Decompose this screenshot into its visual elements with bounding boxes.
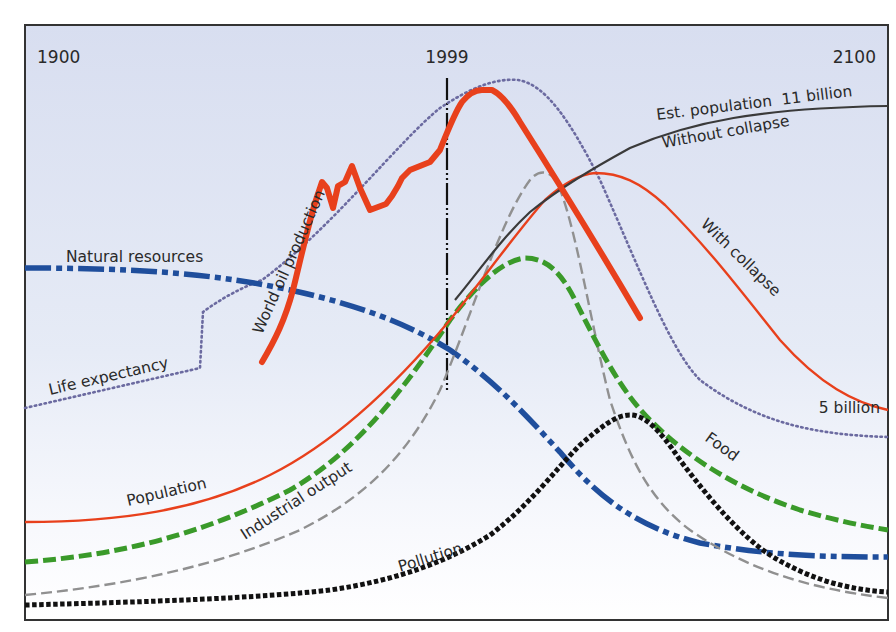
label-5-billion: 5 billion xyxy=(819,399,880,417)
chart-svg: 1900 1999 2100 Natural resources Life ex… xyxy=(0,0,896,632)
year-label-2100: 2100 xyxy=(833,47,876,67)
year-label-1900: 1900 xyxy=(37,47,80,67)
limits-to-growth-chart: 1900 1999 2100 Natural resources Life ex… xyxy=(0,0,896,632)
year-label-1999: 1999 xyxy=(425,47,468,67)
label-natural-resources: Natural resources xyxy=(66,248,203,266)
